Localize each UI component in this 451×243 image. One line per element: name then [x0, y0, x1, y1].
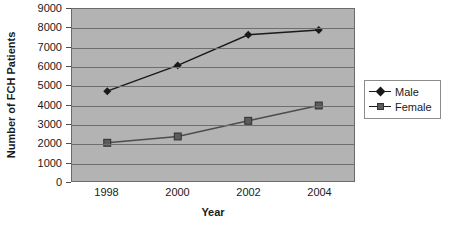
y-axis-tick-label: 1000	[38, 157, 62, 169]
gridline	[72, 67, 354, 68]
y-axis-tick-mark	[66, 27, 71, 28]
chart-legend: MaleFemale	[364, 80, 441, 119]
x-axis-tick-label: 2004	[307, 186, 331, 198]
gridline	[72, 164, 354, 165]
legend-key	[369, 85, 391, 98]
plot-area	[71, 8, 355, 182]
y-axis-tick-labels: 0100020003000400050006000700080009000	[22, 0, 66, 190]
series-line-male	[107, 30, 319, 91]
legend-key	[369, 100, 391, 113]
diamond-marker	[103, 87, 111, 95]
y-axis-tick-mark	[66, 47, 71, 48]
y-axis-tick-label: 2000	[38, 137, 62, 149]
y-axis-tick-mark	[66, 163, 71, 164]
x-axis-tick-labels: 1998200020022004	[71, 186, 355, 204]
y-axis-tick-label: 8000	[38, 21, 62, 33]
gridline	[72, 48, 354, 49]
y-axis-tick-mark	[66, 143, 71, 144]
line-chart: Number of FCH Patients 01000200030004000…	[0, 0, 451, 243]
y-axis-tick-label: 5000	[38, 79, 62, 91]
legend-label: Female	[391, 101, 432, 113]
square-marker	[104, 139, 111, 146]
y-axis-tick-mark	[66, 124, 71, 125]
gridline	[72, 144, 354, 145]
y-axis-title-text: Number of FCH Patients	[5, 32, 17, 159]
gridline	[72, 28, 354, 29]
y-axis-tick-label: 6000	[38, 60, 62, 72]
y-axis-tick-mark	[66, 8, 71, 9]
gridline	[72, 86, 354, 87]
y-axis-tick-label: 0	[56, 176, 62, 188]
x-axis-tick-label: 2000	[165, 186, 189, 198]
x-axis-tick-label: 2002	[236, 186, 260, 198]
y-axis-tick-mark	[66, 182, 71, 183]
gridline	[72, 125, 354, 126]
diamond-marker	[174, 61, 182, 69]
series-layer	[72, 9, 354, 181]
diamond-marker-icon	[376, 87, 386, 97]
square-marker	[245, 117, 252, 124]
y-axis-tick-label: 9000	[38, 2, 62, 14]
y-axis-tick-mark	[66, 66, 71, 67]
y-axis-tick-label: 4000	[38, 99, 62, 111]
x-axis-tick-label: 1998	[94, 186, 118, 198]
square-marker	[174, 133, 181, 140]
square-marker-icon	[377, 103, 384, 110]
gridline	[72, 106, 354, 107]
legend-entry-female[interactable]: Female	[369, 99, 436, 114]
legend-label: Male	[391, 86, 419, 98]
y-axis-tick-label: 7000	[38, 41, 62, 53]
y-axis-tick-label: 3000	[38, 118, 62, 130]
y-axis-tick-mark	[66, 85, 71, 86]
legend-entry-male[interactable]: Male	[369, 84, 436, 99]
diamond-marker	[244, 31, 252, 39]
y-axis-tick-mark	[66, 105, 71, 106]
y-axis-title: Number of FCH Patients	[0, 0, 22, 190]
x-axis-title: Year	[71, 206, 355, 218]
